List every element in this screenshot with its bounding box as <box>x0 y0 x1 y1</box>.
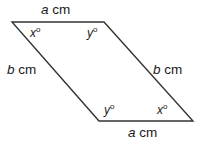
side-label-top-variable: a <box>41 2 49 17</box>
degree-icon: o <box>163 102 167 111</box>
degree-icon: o <box>93 25 97 34</box>
side-label-right-variable: b <box>153 62 161 77</box>
side-label-top: a cm <box>41 3 70 17</box>
side-label-bottom: a cm <box>128 126 157 140</box>
side-label-left-variable: b <box>7 62 15 77</box>
side-label-right-unit: cm <box>161 62 183 77</box>
degree-icon: o <box>110 102 114 111</box>
side-label-right: b cm <box>153 63 182 77</box>
side-label-left: b cm <box>7 63 36 77</box>
angle-label-top-left: xo <box>30 27 40 39</box>
angle-label-bottom-right: xo <box>157 104 167 116</box>
side-label-top-unit: cm <box>49 2 71 17</box>
side-label-bottom-unit: cm <box>136 125 158 140</box>
side-label-bottom-variable: a <box>128 125 136 140</box>
angle-label-bottom-left: yo <box>104 104 114 116</box>
angle-label-top-right: yo <box>87 27 97 39</box>
side-label-left-unit: cm <box>15 62 37 77</box>
degree-icon: o <box>36 25 40 34</box>
parallelogram-diagram: a cm a cm b cm b cm xo yo yo xo <box>0 0 204 145</box>
